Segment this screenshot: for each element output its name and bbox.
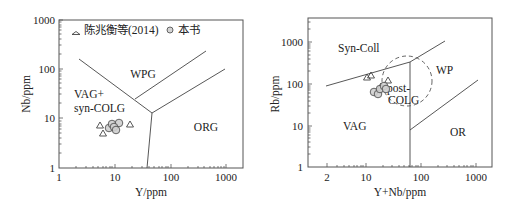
right-xtick-100: 100 bbox=[413, 171, 430, 183]
left-legend: 陈兆衡等(2014) 本书 bbox=[72, 23, 200, 37]
right-chart: 1000 100 10 1 2 10 100 1000 Y+Nb/ppm Rb/… bbox=[269, 18, 492, 199]
left-x-ticks bbox=[76, 164, 226, 168]
left-ytick-1000: 1000 bbox=[33, 14, 56, 26]
right-x-ticks bbox=[327, 163, 476, 167]
right-ytick-1000: 1000 bbox=[281, 36, 304, 48]
legend-label-chen: 陈兆衡等(2014) bbox=[84, 23, 159, 37]
region-colg: COLG bbox=[388, 94, 419, 106]
left-xtick-1000: 1000 bbox=[215, 171, 238, 183]
right-xtick-2: 2 bbox=[324, 171, 330, 183]
left-data-points bbox=[97, 119, 134, 136]
right-ytick-100: 100 bbox=[287, 78, 304, 90]
left-chart: 1000 100 10 1 1 10 100 1000 Y/ppm Nb/ppm… bbox=[20, 14, 243, 199]
legend-triangle-icon bbox=[72, 32, 80, 35]
left-ytick-1: 1 bbox=[50, 162, 56, 174]
region-vag-plus: VAG+ bbox=[74, 88, 104, 100]
left-xtick-10: 10 bbox=[110, 171, 122, 183]
right-ytick-1: 1 bbox=[298, 161, 304, 173]
right-ytick-10: 10 bbox=[292, 120, 304, 132]
right-xtick-10: 10 bbox=[361, 171, 373, 183]
region-syn-coll: Syn-Coll bbox=[338, 42, 380, 55]
region-wpg: WPG bbox=[130, 68, 156, 80]
legend-label-benshu: 本书 bbox=[178, 23, 200, 36]
legend-circle-icon bbox=[167, 27, 173, 33]
left-xtick-100: 100 bbox=[163, 171, 180, 183]
right-y-axis-label: Rb/ppm bbox=[269, 75, 282, 112]
left-xtick-1: 1 bbox=[56, 171, 62, 183]
region-org: ORG bbox=[194, 121, 218, 133]
left-y-ticks bbox=[59, 20, 63, 153]
right-x-axis-label: Y+Nb/ppm bbox=[374, 186, 427, 199]
region-wp: WP bbox=[436, 64, 453, 76]
left-x-axis-label: Y/ppm bbox=[135, 186, 167, 199]
region-vag: VAG bbox=[343, 120, 366, 132]
left-ytick-10: 10 bbox=[44, 112, 56, 124]
region-or: OR bbox=[450, 126, 466, 138]
right-xtick-1000: 1000 bbox=[465, 171, 488, 183]
left-y-axis-label: Nb/ppm bbox=[20, 75, 33, 113]
region-syn-colg: syn-COLG bbox=[74, 102, 125, 115]
chart-canvas: 1000 100 10 1 1 10 100 1000 Y/ppm Nb/ppm… bbox=[0, 0, 510, 210]
left-ytick-100: 100 bbox=[39, 63, 56, 75]
right-y-ticks bbox=[308, 22, 312, 154]
